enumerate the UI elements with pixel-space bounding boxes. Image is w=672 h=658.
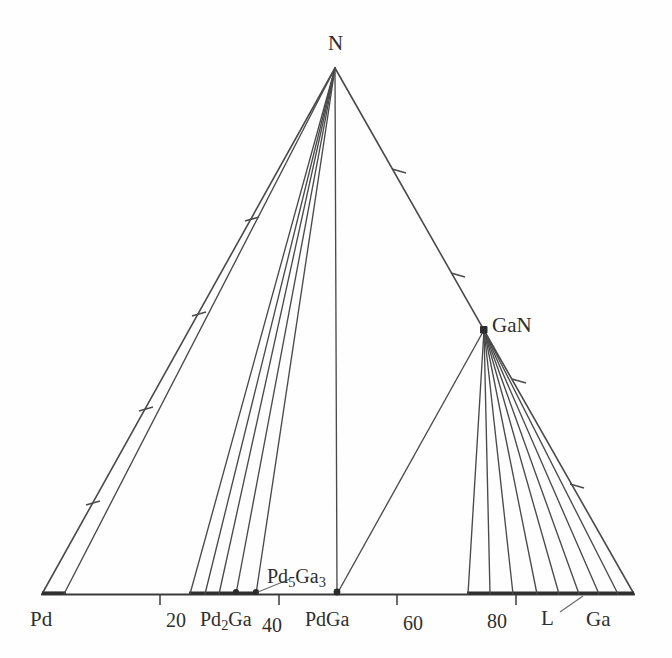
tieline-n xyxy=(64,68,335,594)
corner-label-ga: Ga xyxy=(586,607,611,632)
right-edge-ticks xyxy=(392,169,584,488)
compound-label-pdga: PdGa xyxy=(305,608,349,631)
three-phase-triangle xyxy=(337,330,484,594)
tieline-gan xyxy=(484,330,490,594)
tieline-gan xyxy=(484,330,599,594)
tieline-n xyxy=(236,68,335,594)
tieline-n xyxy=(219,68,335,594)
corner-label-pd: Pd xyxy=(30,607,52,632)
axis-tick-label-20: 20 xyxy=(166,609,186,632)
leader-l xyxy=(560,596,583,612)
edge-pd-n xyxy=(42,68,335,594)
tieline-n-pdga xyxy=(335,68,337,594)
tieline-n xyxy=(190,68,335,594)
compound-label-pd5ga3: Pd5Ga3 xyxy=(267,565,326,591)
tieline-gan xyxy=(468,330,484,594)
axis-tick-label-60: 60 xyxy=(403,612,423,635)
phase-label-liquid: L xyxy=(541,606,554,631)
compound-points xyxy=(233,326,488,595)
ternary-diagram-canvas xyxy=(0,0,672,658)
axis-tick-label-40: 40 xyxy=(262,614,282,637)
tieline-gan xyxy=(484,330,559,594)
corner-label-n: N xyxy=(328,31,343,56)
tielines-from-gan xyxy=(468,330,618,594)
point-gan xyxy=(480,326,488,334)
ternary-phase-diagram: N Pd Ga GaN L Pd2Ga Pd5Ga3 PdGa 20 40 60… xyxy=(0,0,672,658)
triangle-outline xyxy=(42,68,634,595)
compound-label-pd2ga: Pd2Ga xyxy=(200,608,252,634)
point-pdga xyxy=(334,589,341,596)
tieline-n xyxy=(205,68,335,594)
tieline-n xyxy=(256,68,335,594)
point-pd2ga xyxy=(233,589,239,595)
axis-tick-label-80: 80 xyxy=(487,610,507,633)
phase-label-gan: GaN xyxy=(492,313,532,338)
bottom-axis-ticks xyxy=(160,594,516,605)
tielines-from-n xyxy=(64,68,337,594)
tieline-pdga-gan xyxy=(337,330,484,594)
tieline-gan xyxy=(484,330,537,594)
tieline-gan xyxy=(484,330,618,594)
